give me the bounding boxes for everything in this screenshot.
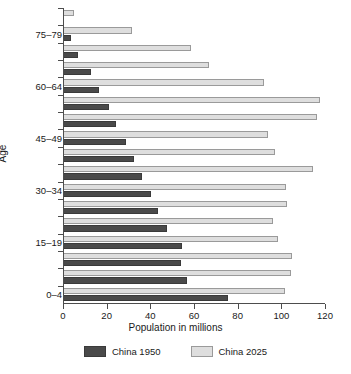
x-axis-tick (325, 304, 326, 309)
y-axis-tick (58, 25, 63, 26)
y-axis-tick (58, 286, 63, 287)
y-axis-tick-label: 45–49 (36, 133, 62, 144)
y-axis-tick (58, 129, 63, 130)
x-axis-tick (107, 304, 108, 309)
chart-legend: China 1950China 2025 (0, 346, 351, 357)
y-axis-tick-label: 30–34 (36, 185, 62, 196)
x-axis-tick (194, 304, 195, 309)
x-axis-tick-label: 40 (130, 310, 170, 321)
y-axis-title: Age (0, 145, 8, 163)
x-axis-tick-label: 0 (43, 310, 83, 321)
bars-layer (63, 8, 325, 303)
y-axis-tick (58, 43, 63, 44)
y-axis-tick-label: 60–64 (36, 81, 62, 92)
y-axis-tick-label: 75–79 (36, 29, 62, 40)
legend-swatch-icon (191, 346, 213, 357)
x-axis-tick (150, 304, 151, 309)
x-axis-title: Population in millions (0, 322, 351, 333)
y-axis-tick (58, 199, 63, 200)
y-axis-tick (58, 147, 63, 148)
x-axis-tick (281, 304, 282, 309)
y-axis-tick (58, 60, 63, 61)
x-axis-tick-label: 60 (174, 310, 214, 321)
y-axis-tick (58, 77, 63, 78)
x-axis-tick (63, 304, 64, 309)
plot-area (63, 8, 325, 303)
y-axis-tick (58, 182, 63, 183)
x-axis-tick-label: 80 (218, 310, 258, 321)
x-axis-tick-label: 120 (305, 310, 345, 321)
bar-group (63, 8, 325, 303)
legend-item: China 2025 (191, 346, 268, 357)
y-axis-line (63, 8, 64, 304)
y-axis-tick (58, 216, 63, 217)
y-axis-tick (58, 8, 63, 9)
legend-swatch-icon (84, 346, 106, 357)
bar-china-2025 (63, 10, 74, 16)
y-axis-tick (58, 164, 63, 165)
population-bar-chart: 0–415–1930–3445–4960–6475–79020406080100… (0, 0, 351, 374)
y-axis-tick (58, 112, 63, 113)
y-axis-tick (58, 234, 63, 235)
x-axis-tick-label: 20 (87, 310, 127, 321)
x-axis-tick-label: 100 (261, 310, 301, 321)
y-axis-tick (58, 251, 63, 252)
legend-label: China 1950 (112, 346, 161, 357)
y-axis-tick-label: 15–19 (36, 237, 62, 248)
y-axis-tick (58, 95, 63, 96)
legend-item: China 1950 (84, 346, 161, 357)
y-axis-tick (58, 268, 63, 269)
x-axis-tick (238, 304, 239, 309)
legend-label: China 2025 (219, 346, 268, 357)
y-axis-tick-label: 0–4 (46, 289, 62, 300)
